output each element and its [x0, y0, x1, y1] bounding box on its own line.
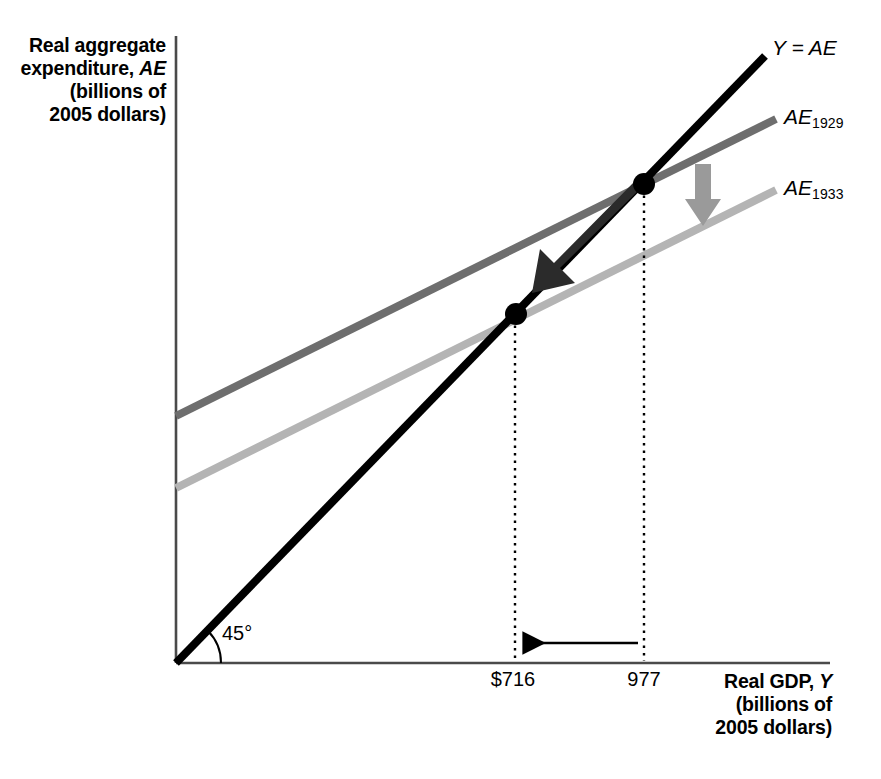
- curve-label-ae-1929-subscript: 1929: [812, 115, 844, 131]
- curve-label-ae-1929: AE1929: [784, 105, 844, 130]
- equilibrium-dot-1929: [633, 173, 655, 195]
- angle-arc: [208, 631, 221, 663]
- x-axis-title-line1-pre: Real GDP,: [724, 670, 819, 692]
- y-axis-title-line1: Real aggregate: [29, 34, 166, 56]
- y-axis-title-line2-pre: expenditure,: [21, 57, 140, 79]
- x-tick-label-977: 977: [596, 668, 692, 692]
- y-equals-ae-line: [176, 56, 765, 663]
- y-axis-variable-ae: AE: [139, 57, 166, 79]
- curve-label-ae-1933: AE1933: [784, 176, 844, 201]
- y-axis-title: Real aggregateexpenditure, AE(billions o…: [8, 34, 166, 126]
- curve-label-y-equals-ae: Y = AE: [772, 36, 837, 61]
- curve-label-ae-1933-base: AE: [784, 176, 812, 199]
- y-axis-title-line3: (billions of: [70, 80, 166, 102]
- curve-label-ae-1933-subscript: 1933: [812, 186, 844, 202]
- x-axis-title-line3: 2005 dollars): [715, 716, 832, 738]
- aggregate-expenditure-chart: Real aggregateexpenditure, AE(billions o…: [0, 0, 881, 779]
- x-axis-title-line2: (billions of: [736, 693, 832, 715]
- y-axis-title-line4: 2005 dollars): [49, 103, 166, 125]
- x-tick-label-716: $716: [463, 668, 563, 692]
- angle-label-45-degrees: 45°: [222, 622, 252, 646]
- x-axis-variable-y: Y: [819, 670, 832, 692]
- equilibrium-move-arrow: [532, 180, 643, 293]
- ae-1933-curve: [176, 190, 776, 488]
- ae-1929-curve: [176, 119, 776, 416]
- equilibrium-dot-1933: [505, 303, 527, 325]
- curve-label-ae-1929-base: AE: [784, 105, 812, 128]
